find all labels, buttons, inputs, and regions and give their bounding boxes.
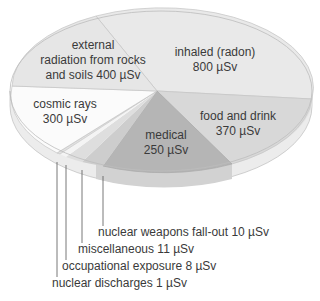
label-food: food and drink 370 µSv — [188, 109, 288, 139]
label-radon: inhaled (radon) 800 µSv — [165, 45, 265, 75]
callout-misc: miscellaneous 11 µSv — [78, 242, 194, 256]
label-medical: medical 250 µSv — [136, 128, 196, 158]
callout-discharges: nuclear discharges 1 µSv — [52, 276, 187, 290]
label-cosmic: cosmic rays 300 µSv — [25, 97, 105, 127]
callout-fallout: nuclear weapons fall-out 10 µSv — [98, 225, 269, 239]
callout-occupational: occupational exposure 8 µSv — [62, 259, 216, 273]
label-external: external radiation from rocks and soils … — [38, 38, 148, 83]
